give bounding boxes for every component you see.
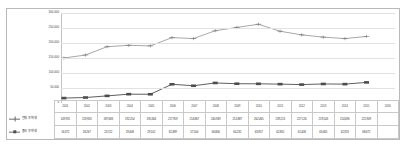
data-point-marker — [148, 44, 154, 47]
column-header-year: 2001 — [55, 101, 77, 113]
table-cell: 68,672 — [356, 126, 378, 139]
legend-label: 전체 유학생 — [22, 117, 37, 120]
table-cell: 57,504 — [184, 126, 206, 139]
data-point-marker — [364, 35, 370, 38]
data-point-marker — [342, 83, 347, 86]
chart-frame: 050,000100,000150,000200,000250,000300,0… — [6, 8, 400, 140]
column-header-year: 2002 — [76, 101, 98, 113]
table-cell: 227,126 — [291, 113, 313, 126]
table-cell — [377, 113, 399, 126]
column-header-year: 2008 — [205, 101, 227, 113]
column-header-year: 2003 — [98, 101, 120, 113]
data-point-marker — [321, 83, 326, 86]
table-cell: 63,957 — [248, 126, 270, 139]
table-cell: 214,696 — [334, 113, 356, 126]
y-axis-tick-label: 200,000 — [29, 41, 59, 44]
data-point-marker — [191, 84, 196, 87]
table-cell: 16,372 — [55, 126, 77, 139]
table-cell: 262,465 — [248, 113, 270, 126]
data-point-marker — [191, 37, 197, 40]
column-header-year: 2012 — [291, 101, 313, 113]
data-point-marker — [234, 82, 239, 85]
table-cell: 62,855 — [270, 126, 292, 139]
table-cell: 192,254 — [119, 113, 141, 126]
legend-cross-marker-icon — [9, 116, 20, 123]
column-header-year: 2016 — [377, 101, 399, 113]
data-point-marker — [256, 23, 262, 26]
data-point-marker — [104, 45, 110, 48]
data-point-marker — [342, 37, 348, 40]
data-point-marker — [105, 95, 110, 98]
table-cell: 29,102 — [141, 126, 163, 139]
table-cell: 18,267 — [76, 126, 98, 139]
table-cell: 23,722 — [98, 126, 120, 139]
table-cell: 251,887 — [227, 113, 249, 126]
table-cell: 62,389 — [162, 126, 184, 139]
data-point-marker — [213, 82, 218, 85]
column-header-year: 2011 — [270, 101, 292, 113]
y-axis-tick-label: 250,000 — [29, 26, 59, 29]
table-cell: 61,408 — [291, 126, 313, 139]
table-cell: 240,949 — [205, 113, 227, 126]
table-cell: 29,408 — [119, 126, 141, 139]
legend-label: 중국 유학생 — [22, 130, 37, 133]
y-axis-tick-label: 300,000 — [29, 11, 59, 14]
data-point-marker — [126, 44, 132, 47]
gridline — [61, 88, 395, 89]
data-point-marker — [83, 96, 88, 99]
table-corner-cell — [7, 101, 55, 113]
data-point-marker — [299, 83, 304, 86]
data-point-marker — [83, 53, 89, 56]
plot-wrap: 050,000100,000150,000200,000250,000300,0… — [7, 9, 399, 106]
column-header-year: 2009 — [227, 101, 249, 113]
data-point-marker — [320, 36, 326, 39]
gridline — [61, 58, 395, 59]
data-point-marker — [126, 93, 131, 96]
y-axis-tick-label: 150,000 — [29, 56, 59, 59]
table-row-years: 2001200220032004200520062007200820092010… — [7, 101, 399, 113]
data-point-marker — [256, 83, 261, 86]
column-header-year: 2006 — [162, 101, 184, 113]
data-point-marker — [148, 93, 153, 96]
table-cell: 187,683 — [98, 113, 120, 126]
column-header-year: 2013 — [313, 101, 335, 113]
table-cell: 149,931 — [55, 113, 77, 126]
y-axis-labels: 050,000100,000150,000200,000250,000300,0… — [29, 13, 59, 103]
table-cell — [377, 126, 399, 139]
column-header-year: 2010 — [248, 101, 270, 113]
table-cell: 159,903 — [76, 113, 98, 126]
data-table: 2001200220032004200520062007200820092010… — [7, 100, 399, 139]
data-point-marker — [169, 83, 174, 86]
table-cell: 64,232 — [227, 126, 249, 139]
y-axis-tick-label: 50,000 — [29, 86, 59, 89]
column-header-year: 2015 — [356, 101, 378, 113]
gridline — [61, 28, 395, 29]
table-cell: 219,543 — [313, 113, 335, 126]
y-axis-tick-label: 100,000 — [29, 71, 59, 74]
data-point-marker — [61, 97, 66, 100]
table-cell: 190,364 — [141, 113, 163, 126]
plot-area — [61, 13, 395, 103]
table-row: 전체 유학생149,931159,903187,683192,254190,36… — [7, 113, 399, 126]
legend-square-marker-icon — [9, 129, 20, 136]
column-header-year: 2005 — [141, 101, 163, 113]
data-point-marker — [169, 36, 175, 39]
table-cell: 221,909 — [356, 113, 378, 126]
column-header-year: 2007 — [184, 101, 206, 113]
data-point-marker — [278, 83, 283, 86]
column-header-year: 2004 — [119, 101, 141, 113]
data-point-marker — [299, 33, 305, 36]
gridline — [61, 43, 395, 44]
table-row-header-total: 전체 유학생 — [7, 113, 55, 126]
table-cell: 217,959 — [162, 113, 184, 126]
table-row: 중국 유학생16,37218,26723,72229,40829,10262,3… — [7, 126, 399, 139]
table-cell: 214,867 — [184, 113, 206, 126]
column-header-year: 2014 — [334, 101, 356, 113]
table-cell: 66,806 — [205, 126, 227, 139]
table-cell: 62,923 — [334, 126, 356, 139]
data-point-marker — [364, 81, 369, 84]
gridline — [61, 73, 395, 74]
data-point-marker — [277, 30, 283, 33]
table-row-header-china: 중국 유학생 — [7, 126, 55, 139]
table-cell: 63,465 — [313, 126, 335, 139]
